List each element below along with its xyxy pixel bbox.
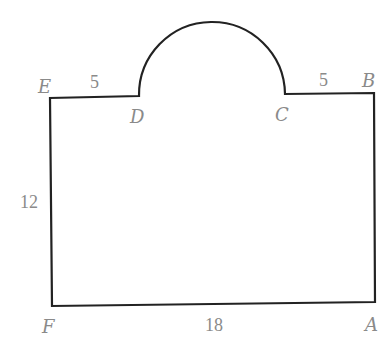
- vertex-label-a: A: [363, 314, 378, 335]
- vertex-label-b: B: [361, 70, 375, 91]
- shape-outline: [50, 22, 375, 306]
- measure-fa: 18: [205, 315, 223, 335]
- measure-ed: 5: [90, 72, 99, 92]
- measure-ef: 12: [20, 192, 38, 212]
- vertex-label-d: D: [129, 106, 145, 127]
- geometry-figure: E D C B A F 5 5 12 18: [0, 0, 392, 344]
- vertex-label-c: C: [275, 104, 289, 125]
- measure-cb: 5: [319, 70, 328, 90]
- vertex-label-e: E: [37, 76, 51, 97]
- vertex-label-f: F: [41, 316, 56, 337]
